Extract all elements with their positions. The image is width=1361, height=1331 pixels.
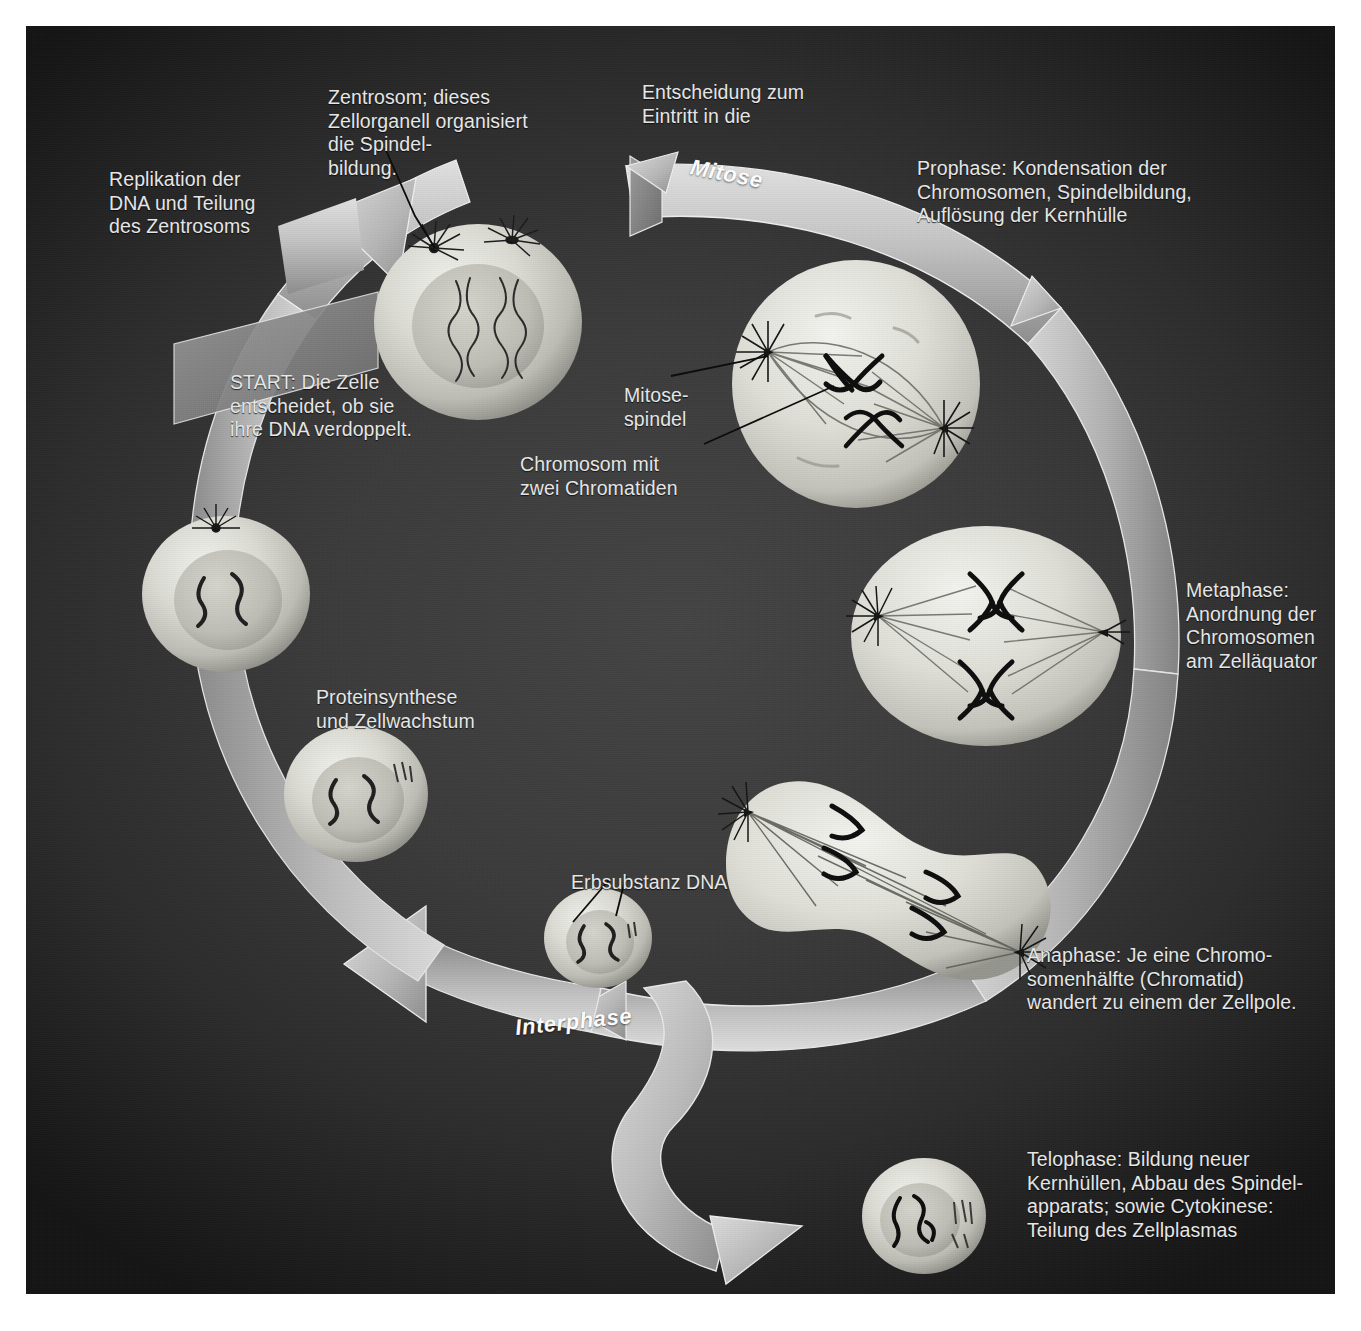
diagram-canvas: Zentrosom; dieses Zellorganell organisie… — [0, 0, 1361, 1331]
caption-entscheidung-mitose: Entscheidung zum Eintritt in die — [642, 81, 804, 128]
caption-start: START: Die Zelle entscheidet, ob sie ihr… — [230, 371, 412, 442]
cell-g2-phase — [544, 888, 652, 988]
cell-prophase — [732, 260, 980, 508]
caption-mitosespindel: Mitose- spindel — [624, 384, 689, 431]
caption-chromosom: Chromosom mit zwei Chromatiden — [520, 453, 678, 500]
cell-anaphase — [718, 781, 1051, 980]
caption-replikation: Replikation der DNA und Teilung des Zent… — [109, 168, 255, 239]
cell-metaphase — [846, 526, 1130, 746]
caption-proteinsynthese: Proteinsynthese und Zellwachstum — [316, 686, 475, 733]
caption-telophase: Telophase: Bildung neuer Kernhüllen, Abb… — [1027, 1148, 1303, 1242]
cell-telophase — [862, 1158, 986, 1274]
cell-g1-small — [142, 504, 310, 672]
caption-metaphase: Metaphase: Anordnung der Chromosomen am … — [1186, 579, 1317, 673]
cell-s-phase — [284, 726, 428, 862]
illustration-panel: Zentrosom; dieses Zellorganell organisie… — [26, 26, 1335, 1294]
caption-prophase: Prophase: Kondensation der Chromosomen, … — [917, 157, 1192, 228]
caption-anaphase: Anaphase: Je eine Chromo- somenhälfte (C… — [1027, 944, 1297, 1015]
caption-zentrosom: Zentrosom; dieses Zellorganell organisie… — [328, 86, 528, 180]
caption-erbsubstanz: Erbsubstanz DNA — [571, 871, 727, 895]
